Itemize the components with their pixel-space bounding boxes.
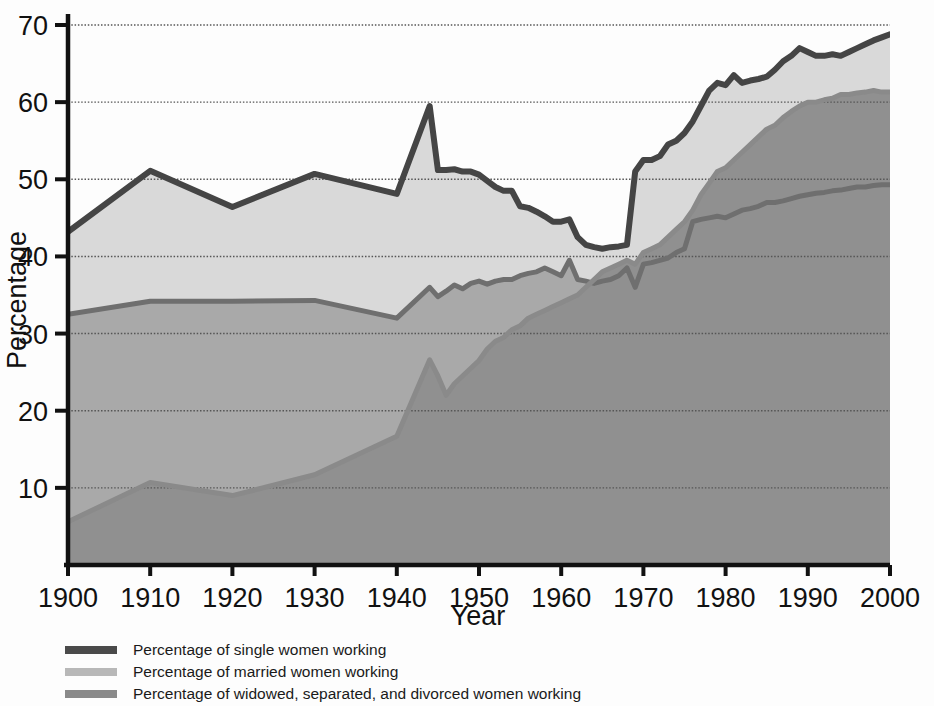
x-tick-label-1930: 1930 [285,583,345,613]
y-tick-label-20: 20 [18,397,48,427]
x-tick-label-1960: 1960 [531,583,591,613]
y-tick-label-50: 50 [18,165,48,195]
area-chart: 10203040506070 1900191019201930194019501… [0,0,934,706]
x-tick-label-1900: 1900 [38,583,98,613]
y-tick-label-70: 70 [18,11,48,41]
x-tick-label-1980: 1980 [696,583,756,613]
x-axis-title: Year [451,601,506,631]
x-tick-label-1940: 1940 [367,583,427,613]
x-tick-label-1970: 1970 [613,583,673,613]
y-tick-label-60: 60 [18,88,48,118]
legend-swatch-1 [65,668,117,676]
y-axis-title: Percentage [2,231,32,369]
x-tick-label-2000: 2000 [860,583,920,613]
legend-label-0: Percentage of single women working [133,641,386,658]
x-tick-label-1910: 1910 [120,583,180,613]
x-tick-label-1990: 1990 [778,583,838,613]
y-tick-label-10: 10 [18,474,48,504]
legend-swatch-0 [65,646,117,654]
chart-container: 10203040506070 1900191019201930194019501… [0,0,934,706]
x-tick-label-1920: 1920 [202,583,262,613]
legend-label-2: Percentage of widowed, separated, and di… [133,685,581,702]
legend-swatch-2 [65,690,117,698]
legend-label-1: Percentage of married women working [133,663,398,680]
